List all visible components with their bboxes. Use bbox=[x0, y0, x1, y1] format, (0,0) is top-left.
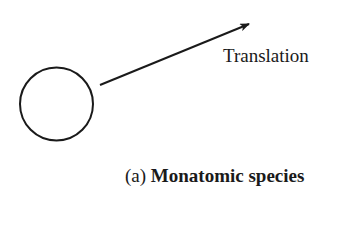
caption-prefix: (a) bbox=[125, 165, 146, 186]
atom-circle bbox=[20, 68, 93, 141]
caption-title: Monatomic species bbox=[151, 165, 305, 186]
figure-caption: (a) Monatomic species bbox=[125, 165, 304, 187]
translation-label: Translation bbox=[223, 45, 309, 67]
